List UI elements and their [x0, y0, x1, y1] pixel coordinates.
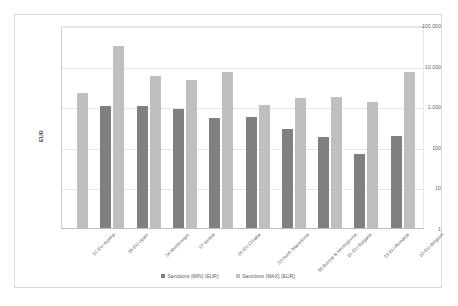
- bar-group: [389, 27, 425, 228]
- legend-label: Sanctions (MAX) (EUR): [242, 273, 295, 279]
- bar-group: [280, 27, 316, 228]
- bar: [209, 118, 220, 228]
- bar: [259, 105, 270, 228]
- chart-legend: Sanctions (MIN) (EUR)Sanctions (MAX) (EU…: [15, 273, 441, 279]
- bar: [100, 106, 111, 228]
- bar: [331, 97, 342, 228]
- bar: [137, 106, 148, 228]
- bar-group: [98, 27, 134, 228]
- y-axis-tick-label: 1: [397, 226, 441, 232]
- bar: [222, 72, 233, 228]
- bar-group: [62, 27, 98, 228]
- bars-layer: [62, 27, 423, 228]
- y-axis-tick-label: 100.000: [397, 23, 441, 29]
- x-axis-tick-label: 37-Serbia: [198, 232, 216, 250]
- bar: [150, 76, 161, 228]
- bar-group: [352, 27, 388, 228]
- bar-group: [207, 27, 243, 228]
- bar-group: [244, 27, 280, 228]
- legend-label: Sanctions (MIN) (EUR): [168, 273, 219, 279]
- x-axis-tick-label: 04-EU-Croatia: [237, 232, 262, 257]
- chart-container: EUR 1101001.00010.000100.000 01-EU-Austr…: [14, 14, 442, 288]
- x-axis-tick-label: 01-EU-Austria: [91, 232, 115, 256]
- y-axis-tick-label: 100: [397, 145, 441, 151]
- x-axis-tick-label: 34-Montenegro: [165, 232, 191, 258]
- legend-swatch: [161, 274, 165, 278]
- x-axis-tick-label: 23-EU-Romania: [383, 232, 410, 259]
- bar: [246, 117, 257, 228]
- x-axis-tick-label: 02-EU-Belgium: [419, 232, 445, 258]
- y-axis-tick-label: 10: [397, 185, 441, 191]
- bar-group: [135, 27, 171, 228]
- legend-item[interactable]: Sanctions (MAX) (EUR): [236, 273, 295, 279]
- legend-swatch: [236, 274, 240, 278]
- x-axis-tick-label: 33-North Macedonia: [277, 232, 311, 266]
- bar: [354, 154, 365, 228]
- bar: [113, 46, 124, 228]
- bar: [186, 80, 197, 228]
- x-axis-tick-label: 26-EU-Spain: [127, 232, 150, 255]
- bar: [282, 129, 293, 228]
- legend-item[interactable]: Sanctions (MIN) (EUR): [161, 273, 219, 279]
- y-axis-tick-label: 1.000: [397, 104, 441, 110]
- plot-area: [61, 26, 424, 229]
- bar-group: [316, 27, 352, 228]
- bar-group: [171, 27, 207, 228]
- bar: [77, 93, 88, 228]
- bar: [173, 109, 184, 228]
- y-axis-tick-label: 10.000: [397, 64, 441, 70]
- bar: [367, 102, 378, 228]
- bar: [295, 98, 306, 228]
- bar: [318, 137, 329, 228]
- y-axis-title: EUR: [38, 130, 44, 142]
